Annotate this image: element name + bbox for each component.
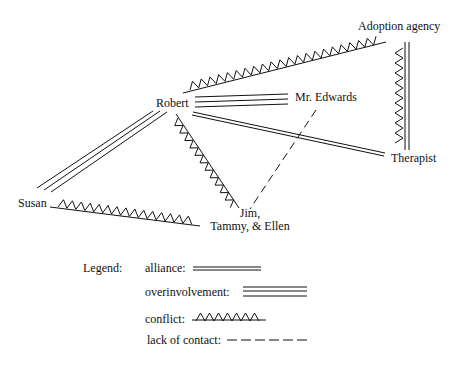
legend-label-lack-of-contact: lack of contact: bbox=[147, 334, 221, 347]
legend-swatch-overinvolvement bbox=[243, 287, 307, 296]
diagram-canvas bbox=[0, 0, 465, 371]
legend-label-alliance: alliance: bbox=[145, 262, 186, 275]
node-therapist: Therapist bbox=[391, 152, 436, 165]
edge-robert-susan-overinvolvement bbox=[37, 111, 167, 192]
node-adoption-agency: Adoption agency bbox=[358, 20, 440, 33]
edge-susan-children-conflict bbox=[50, 200, 200, 226]
edge-robert-therapist-alliance bbox=[192, 112, 385, 156]
edge-robert-adoption-conflict bbox=[183, 36, 386, 93]
legend-swatch-conflict bbox=[192, 313, 266, 321]
node-mr-edwards: Mr. Edwards bbox=[295, 91, 357, 104]
legend-swatch-alliance bbox=[193, 267, 261, 270]
legend-label-overinvolvement: overinvolvement: bbox=[145, 286, 230, 299]
edge-edwards-children-lack-of-contact bbox=[250, 110, 316, 209]
edge-adoption-therapist-conflict bbox=[395, 42, 409, 150]
node-robert: Robert bbox=[156, 97, 189, 110]
edge-robert-edwards-overinvolvement bbox=[195, 94, 288, 107]
edge-robert-children-conflict bbox=[175, 114, 239, 208]
node-susan: Susan bbox=[18, 197, 47, 210]
node-children-line2: Tammy, & Ellen bbox=[205, 220, 295, 233]
legend-label-conflict: conflict: bbox=[145, 313, 185, 326]
node-children: Jim, Tammy, & Ellen bbox=[205, 207, 295, 233]
legend-title: Legend: bbox=[83, 262, 122, 275]
